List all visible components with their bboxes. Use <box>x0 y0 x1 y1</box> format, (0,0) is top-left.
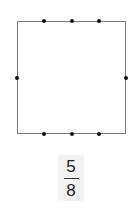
dot-bottom <box>97 132 101 136</box>
dot-top <box>42 19 46 23</box>
square-outline <box>17 21 126 134</box>
dot-bottom <box>42 132 46 136</box>
fraction-card: 5 8 <box>58 155 84 201</box>
fraction-denominator: 8 <box>66 182 75 199</box>
dot-top <box>70 19 74 23</box>
dot-top <box>97 19 101 23</box>
dot-bottom <box>70 132 74 136</box>
dot-left <box>15 76 19 80</box>
fraction-numerator: 5 <box>66 158 75 175</box>
fraction-bar <box>64 178 79 179</box>
dot-right <box>124 76 128 80</box>
